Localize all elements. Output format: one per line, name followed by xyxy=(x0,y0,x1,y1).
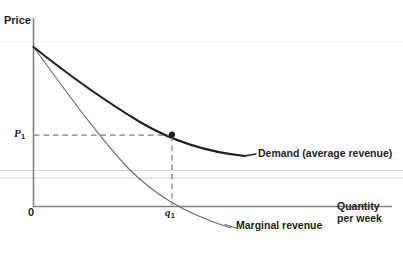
x-axis-title: Quantityper week xyxy=(337,201,382,225)
quantity-tick-label: q1 xyxy=(165,206,175,218)
x-axis-title-line-1: Quantity xyxy=(337,200,380,212)
y-axis-title: Price xyxy=(4,14,31,26)
price-tick-letter: P xyxy=(14,127,21,139)
economics-demand-marginal-revenue-figure: Price 0 P1 q1 Demand (average revenue) M… xyxy=(0,0,403,253)
price-tick-label: P1 xyxy=(14,127,25,139)
demand-label-leader-line xyxy=(244,154,256,156)
marginal-revenue-curve xyxy=(34,47,232,228)
price-tick-subscript: 1 xyxy=(21,132,25,141)
origin-label: 0 xyxy=(28,206,34,218)
demand-curve-label: Demand (average revenue) xyxy=(258,148,392,160)
equilibrium-point-marker xyxy=(169,131,175,137)
quantity-tick-letter: q xyxy=(165,206,171,218)
marginal-revenue-curve-label: Marginal revenue xyxy=(236,220,322,232)
demand-curve xyxy=(34,47,246,156)
x-axis-title-line-2: per week xyxy=(337,212,382,224)
quantity-tick-subscript: 1 xyxy=(171,211,175,220)
